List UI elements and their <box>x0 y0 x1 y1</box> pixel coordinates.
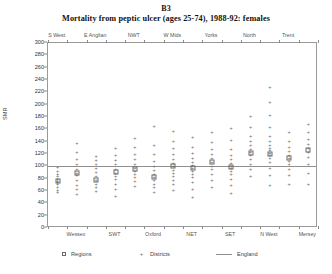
region-marker <box>132 167 137 172</box>
district-marker <box>248 133 253 138</box>
district-marker <box>152 190 157 195</box>
top-group-label: North <box>243 32 256 38</box>
x-axis-tick-mark <box>67 226 68 229</box>
district-marker <box>152 168 157 173</box>
district-marker <box>74 182 79 187</box>
district-marker <box>113 182 118 187</box>
district-marker <box>248 143 253 148</box>
figure-panel: B3 Mortality from peptic ulcer (ages 25-… <box>0 0 332 274</box>
district-marker <box>74 192 79 197</box>
x-axis-tick-mark-top <box>183 40 184 43</box>
x-axis-tick-mark-top <box>260 40 261 43</box>
y-axis-tick-label: 80 <box>18 175 44 181</box>
legend-label: England <box>237 251 258 257</box>
district-marker <box>306 122 311 127</box>
district-marker <box>94 153 99 158</box>
district-marker <box>267 133 272 138</box>
y-axis-tick-label: 120 <box>18 150 44 156</box>
district-marker <box>171 152 176 157</box>
district-marker <box>132 145 137 150</box>
bottom-group-label: Wessex <box>67 231 86 237</box>
plot-area <box>47 42 317 227</box>
district-marker <box>209 140 214 145</box>
x-axis-tick-mark <box>106 226 107 229</box>
district-marker <box>113 158 118 163</box>
district-marker <box>267 172 272 177</box>
region-marker <box>306 147 311 152</box>
x-axis-tick-mark <box>183 226 184 229</box>
x-axis-tick-mark <box>87 226 88 229</box>
y-axis-tick-label: 240 <box>18 76 44 82</box>
bottom-group-label: Oxford <box>145 231 161 237</box>
district-marker <box>267 113 272 118</box>
district-marker <box>306 181 311 186</box>
region-marker <box>287 156 292 161</box>
district-marker <box>248 113 253 118</box>
district-marker <box>229 156 234 161</box>
y-axis-tick-label: 40 <box>18 199 44 205</box>
region-marker <box>113 169 118 174</box>
region-marker <box>248 150 253 155</box>
legend-label: Districts <box>150 251 170 257</box>
england-reference-line <box>48 166 316 167</box>
x-axis-tick-mark <box>260 226 261 229</box>
district-marker <box>132 135 137 140</box>
y-axis-tick-label: 180 <box>18 113 44 119</box>
district-marker <box>113 193 118 198</box>
x-axis-tick-mark-top <box>125 40 126 43</box>
district-marker <box>55 164 60 169</box>
y-axis-tick-label: 100 <box>18 162 44 168</box>
plus-marker-icon: + <box>138 251 145 258</box>
district-marker <box>267 99 272 104</box>
x-axis-tick-mark-top <box>144 40 145 43</box>
y-axis-tick-label: 0 <box>18 224 44 230</box>
district-marker <box>248 174 253 179</box>
x-axis-tick-mark-top <box>279 40 280 43</box>
district-marker <box>190 180 195 185</box>
district-marker <box>132 161 137 166</box>
district-marker <box>287 166 292 171</box>
district-marker <box>287 139 292 144</box>
district-marker <box>132 152 137 157</box>
x-axis-tick-mark <box>222 226 223 229</box>
plot-inner <box>48 43 316 226</box>
top-group-label: S West <box>48 32 65 38</box>
district-marker <box>209 177 214 182</box>
district-marker <box>209 152 214 157</box>
x-axis-tick-mark-top <box>106 40 107 43</box>
district-marker <box>152 142 157 147</box>
district-marker <box>287 130 292 135</box>
district-marker <box>267 85 272 90</box>
district-marker <box>267 165 272 170</box>
district-marker <box>248 139 253 144</box>
y-axis-tick-label: 200 <box>18 101 44 107</box>
y-axis-title: SMR <box>2 108 8 120</box>
district-marker <box>152 158 157 163</box>
y-axis-tick-label: 160 <box>18 125 44 131</box>
bottom-group-labels: WessexSWTOxfordNETSETN WestMersey <box>47 231 317 240</box>
x-axis-tick-mark-top <box>318 40 319 43</box>
district-marker <box>190 134 195 139</box>
x-axis-tick-mark-top <box>241 40 242 43</box>
top-group-label: NWT <box>128 32 140 38</box>
district-marker <box>306 155 311 160</box>
x-axis-tick-mark-top <box>48 40 49 43</box>
region-marker <box>94 177 99 182</box>
region-marker <box>55 178 60 183</box>
district-marker <box>94 158 99 163</box>
figure-label: B3 <box>0 4 332 13</box>
district-marker <box>287 181 292 186</box>
district-marker <box>190 195 195 200</box>
bottom-group-label: SET <box>225 231 235 237</box>
district-marker <box>287 144 292 149</box>
district-marker <box>287 148 292 153</box>
region-marker <box>74 170 79 175</box>
district-marker <box>229 138 234 143</box>
district-marker <box>229 191 234 196</box>
district-marker <box>306 136 311 141</box>
district-marker <box>113 146 118 151</box>
district-marker <box>229 147 234 152</box>
top-group-label: Trent <box>282 32 294 38</box>
y-axis-tick-label: 20 <box>18 212 44 218</box>
legend-item-districts: +Districts <box>138 248 170 260</box>
